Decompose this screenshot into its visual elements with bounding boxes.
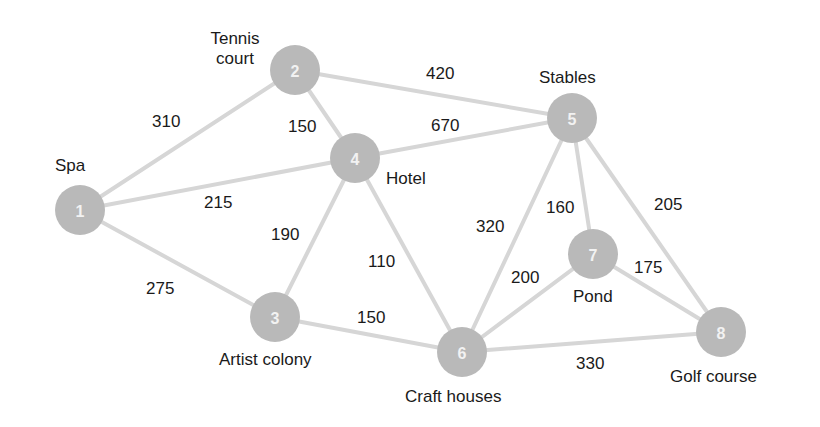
node-label-tennis-court: Tennis court xyxy=(200,29,270,69)
svg-text:8: 8 xyxy=(717,325,726,342)
node-label-hotel: Hotel xyxy=(386,169,426,189)
nodes: 1 2 3 4 5 6 7 8 xyxy=(55,45,746,377)
svg-text:4: 4 xyxy=(351,151,360,168)
node-6: 6 xyxy=(437,327,487,377)
edge-1-3 xyxy=(80,210,275,317)
edge-weight-7-8: 175 xyxy=(634,258,662,278)
svg-text:1: 1 xyxy=(76,203,85,220)
edge-weight-5-6: 320 xyxy=(476,217,504,237)
svg-text:3: 3 xyxy=(271,310,280,327)
node-label-golf-course: Golf course xyxy=(670,367,757,387)
svg-text:5: 5 xyxy=(568,111,577,128)
edge-weight-6-8: 330 xyxy=(576,354,604,374)
svg-text:2: 2 xyxy=(291,63,300,80)
edge-6-8 xyxy=(462,332,721,352)
edge-weight-4-6: 110 xyxy=(368,252,395,272)
node-label-tennis-line1: Tennis xyxy=(200,29,270,49)
node-3: 3 xyxy=(250,292,300,342)
node-label-craft-houses: Craft houses xyxy=(405,387,501,407)
edge-weight-2-5: 420 xyxy=(426,64,454,84)
edge-weight-4-3: 190 xyxy=(271,225,299,245)
graph-canvas: 1 2 3 4 5 6 7 8 xyxy=(0,0,820,427)
edge-weight-5-7: 160 xyxy=(546,198,574,218)
node-8: 8 xyxy=(696,307,746,357)
edge-weight-1-4: 215 xyxy=(204,193,232,213)
svg-text:7: 7 xyxy=(589,247,598,264)
edge-weight-4-5: 670 xyxy=(431,116,459,136)
node-label-tennis-line2: court xyxy=(200,49,270,69)
node-label-pond: Pond xyxy=(573,287,613,307)
node-label-artist-colony: Artist colony xyxy=(219,350,312,370)
node-label-spa: Spa xyxy=(55,156,85,176)
node-7: 7 xyxy=(568,229,618,279)
node-1: 1 xyxy=(55,185,105,235)
node-4: 4 xyxy=(330,133,380,183)
edge-weight-5-8: 205 xyxy=(654,195,682,215)
edge-weight-2-4: 150 xyxy=(288,117,316,137)
edge-weight-7-6: 200 xyxy=(511,268,539,288)
edge-weight-1-3: 275 xyxy=(146,279,174,299)
node-label-stables: Stables xyxy=(539,68,596,88)
node-5: 5 xyxy=(547,93,597,143)
svg-text:6: 6 xyxy=(458,345,467,362)
edge-weight-1-2: 310 xyxy=(152,112,180,132)
edge-4-5 xyxy=(355,118,572,158)
edge-weight-3-6: 150 xyxy=(357,308,385,328)
node-2: 2 xyxy=(270,45,320,95)
